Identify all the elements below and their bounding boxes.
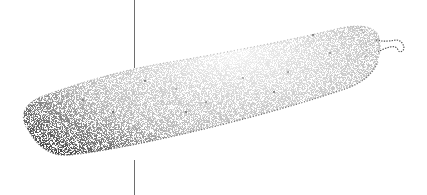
- zucchini-body: [0, 0, 427, 195]
- zucchini-drawing: [0, 0, 427, 195]
- illustration: [0, 0, 427, 195]
